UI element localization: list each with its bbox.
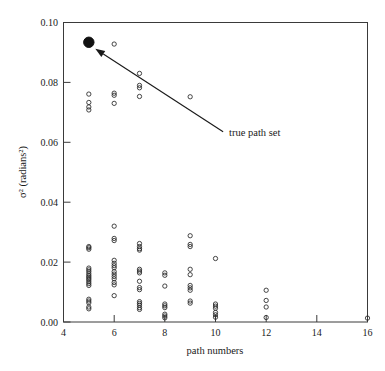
x-tick-label: 16	[363, 327, 373, 338]
annotation-label: true path set	[229, 127, 280, 138]
data-point-marker	[87, 100, 91, 104]
y-axis-ticks	[64, 23, 71, 323]
data-point-marker	[137, 279, 141, 283]
data-point-marker	[112, 224, 116, 228]
x-tick-label: 12	[261, 327, 271, 338]
plot-frame	[64, 23, 368, 323]
x-axis-ticks	[64, 315, 368, 322]
annotation-true-path-set: true path set	[95, 49, 280, 138]
data-points-open	[87, 42, 370, 320]
y-tick-label: 0.00	[41, 317, 59, 328]
plot-canvas: 0.00 0.02 0.04 0.06 0.08 0.10 4 6 8 10 1…	[0, 0, 385, 371]
data-point-marker	[188, 273, 192, 277]
x-tick-label: 6	[112, 327, 117, 338]
scatter-plot-figure: 0.00 0.02 0.04 0.06 0.08 0.10 4 6 8 10 1…	[0, 0, 385, 371]
data-point-marker	[112, 101, 116, 105]
data-point-marker	[137, 94, 141, 98]
x-axis-tick-labels: 4 6 8 10 12 14 16	[61, 327, 373, 338]
data-point-marker	[188, 95, 192, 99]
y-axis-title: σ² (radians²)	[17, 146, 29, 198]
annotation-arrowhead	[95, 49, 105, 57]
x-tick-label: 4	[61, 327, 66, 338]
y-tick-label: 0.06	[41, 137, 59, 148]
y-tick-label: 0.02	[41, 257, 59, 268]
data-point-true-path-set	[84, 37, 94, 47]
y-tick-label: 0.04	[41, 197, 59, 208]
data-point-marker	[137, 71, 141, 75]
y-axis-tick-labels: 0.00 0.02 0.04 0.06 0.08 0.10	[41, 17, 59, 328]
data-point-marker	[188, 234, 192, 238]
x-tick-label: 10	[211, 327, 221, 338]
x-tick-label: 8	[162, 327, 167, 338]
data-point-marker	[188, 267, 192, 271]
data-point-marker	[112, 293, 116, 297]
data-point-marker	[264, 288, 268, 292]
data-point-marker	[87, 92, 91, 96]
x-axis-title: path numbers	[187, 345, 244, 356]
data-point-marker	[163, 284, 167, 288]
data-point-marker	[264, 305, 268, 309]
data-point-marker	[112, 42, 116, 46]
data-point-marker	[264, 298, 268, 302]
x-tick-label: 14	[312, 327, 322, 338]
y-tick-label: 0.10	[41, 17, 59, 28]
data-point-marker	[213, 256, 217, 260]
true-path-marker	[84, 37, 94, 47]
y-tick-label: 0.08	[41, 77, 59, 88]
annotation-arrow-line	[103, 54, 223, 132]
data-point-marker	[87, 108, 91, 112]
